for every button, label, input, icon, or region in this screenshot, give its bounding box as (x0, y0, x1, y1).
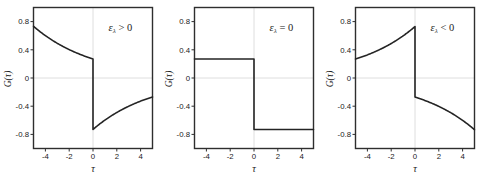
x-tick-label: 4 (299, 152, 304, 161)
x-tick-label: 4 (138, 152, 143, 161)
x-tick-label: -4 (364, 152, 372, 161)
x-tick-label: 0 (413, 152, 418, 161)
y-tick-label: 0 (25, 74, 30, 83)
y-tick-label: 0 (347, 74, 352, 83)
y-axis-label: G(τ) (3, 71, 14, 88)
x-tick-label: 0 (91, 152, 96, 161)
y-tick-label: 0.4 (179, 46, 191, 55)
y-tick-label: 0.8 (340, 17, 351, 26)
x-tick-label: -4 (203, 152, 211, 161)
x-tick-label: 4 (460, 152, 465, 161)
y-tick-label: 0 (186, 74, 191, 83)
plot-epsilon-negative: 0.80.40-0.4-0.8-4-2024ελ < 0τG(τ) (322, 0, 483, 185)
panel-epsilon-zero: 0.80.40-0.4-0.8-4-2024ελ = 0τG(τ) (161, 0, 322, 185)
y-axis-label: G(τ) (325, 71, 336, 88)
annotation-epsilon-condition: ελ < 0 (431, 22, 455, 35)
y-tick-label: 0.8 (179, 17, 190, 26)
annotation-epsilon-condition: ελ > 0 (109, 22, 133, 35)
x-axis-label: τ (252, 163, 256, 174)
plot-epsilon-positive: 0.80.40-0.4-0.8-4-2024ελ > 0τG(τ) (0, 0, 161, 185)
y-axis-ticks: 0.80.40-0.4-0.8 (177, 17, 195, 139)
greens-function-curve (195, 59, 314, 130)
x-axis-ticks: -4-2024 (203, 149, 304, 162)
y-tick-label: -0.8 (16, 130, 29, 139)
panel-epsilon-negative: 0.80.40-0.4-0.8-4-2024ελ < 0τG(τ) (322, 0, 483, 185)
y-tick-label: 0.8 (18, 17, 29, 26)
plot-epsilon-zero: 0.80.40-0.4-0.8-4-2024ελ = 0τG(τ) (161, 0, 322, 185)
x-tick-label: 0 (252, 152, 257, 161)
y-axis-ticks: 0.80.40-0.4-0.8 (16, 17, 34, 139)
y-tick-label: -0.4 (338, 102, 352, 111)
y-tick-label: 0.4 (340, 46, 352, 55)
x-tick-label: 2 (276, 152, 280, 161)
x-tick-label: -2 (66, 152, 73, 161)
annotation-relation-value: > 0 (116, 22, 132, 33)
x-tick-label: 2 (115, 152, 119, 161)
y-tick-label: -0.8 (338, 130, 351, 139)
annotation-relation-value: = 0 (277, 22, 293, 33)
y-tick-label: -0.4 (177, 102, 191, 111)
y-axis-ticks: 0.80.40-0.4-0.8 (338, 17, 356, 139)
panel-epsilon-positive: 0.80.40-0.4-0.8-4-2024ελ > 0τG(τ) (0, 0, 161, 185)
y-tick-label: -0.4 (16, 102, 30, 111)
y-axis-label: G(τ) (164, 71, 175, 88)
x-axis-ticks: -4-2024 (364, 149, 465, 162)
y-tick-label: 0.4 (18, 46, 30, 55)
y-tick-label: -0.8 (177, 130, 190, 139)
annotation-epsilon-condition: ελ = 0 (270, 22, 294, 35)
x-axis-label: τ (91, 163, 95, 174)
x-axis-label: τ (413, 163, 417, 174)
x-axis-ticks: -4-2024 (42, 149, 143, 162)
annotation-relation-value: < 0 (438, 22, 454, 33)
three-panel-greens-function-figure: 0.80.40-0.4-0.8-4-2024ελ > 0τG(τ) 0.80.4… (0, 0, 483, 185)
x-tick-label: -2 (227, 152, 234, 161)
x-tick-label: -2 (388, 152, 395, 161)
x-tick-label: -4 (42, 152, 50, 161)
x-tick-label: 2 (437, 152, 441, 161)
